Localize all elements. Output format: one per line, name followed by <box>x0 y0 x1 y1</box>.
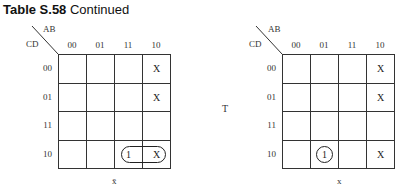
cell <box>59 140 87 169</box>
table-number: Table S.58 <box>3 2 66 17</box>
map-caption: x <box>337 176 342 186</box>
cell: X <box>143 83 171 112</box>
cell <box>87 83 115 112</box>
row-label: 10 <box>32 149 52 159</box>
cell <box>87 112 115 141</box>
cell <box>115 112 143 141</box>
col-label: 11 <box>114 40 142 50</box>
grouping-circle: 1 <box>316 146 333 163</box>
col-label: 01 <box>86 40 114 50</box>
cell <box>339 140 367 169</box>
col-var-label: AB <box>43 24 56 34</box>
row-label: 10 <box>256 149 276 159</box>
row-var-label: CD <box>26 39 39 49</box>
cell: X <box>143 55 171 84</box>
middle-label: T <box>222 103 228 114</box>
map-caption: x̄ <box>112 176 117 186</box>
row-label: 11 <box>256 120 276 130</box>
cell <box>59 112 87 141</box>
cell <box>87 55 115 84</box>
table-title: Table S.58 Continued <box>3 2 129 17</box>
row-label: 00 <box>32 63 52 73</box>
cell <box>59 83 87 112</box>
row-var-label: CD <box>249 39 262 49</box>
cell <box>115 83 143 112</box>
table-continued-label: Continued <box>70 2 129 17</box>
col-var-label: AB <box>268 24 281 34</box>
cell-circled: 1 <box>311 140 339 169</box>
cell <box>59 55 87 84</box>
col-label: 10 <box>366 40 394 50</box>
cell <box>87 140 115 169</box>
cell: X <box>367 83 395 112</box>
cell <box>339 83 367 112</box>
col-label: 10 <box>142 40 170 50</box>
cell <box>283 112 311 141</box>
cell <box>283 55 311 84</box>
cell: X <box>367 55 395 84</box>
cell <box>283 83 311 112</box>
col-label: 00 <box>58 40 86 50</box>
col-label: 11 <box>338 40 366 50</box>
cell <box>311 83 339 112</box>
cell: X <box>367 140 395 169</box>
col-label: 01 <box>310 40 338 50</box>
row-label: 01 <box>256 92 276 102</box>
cell <box>339 55 367 84</box>
row-label: 11 <box>32 120 52 130</box>
grouping-loop <box>121 146 166 163</box>
cell <box>311 112 339 141</box>
cell <box>311 55 339 84</box>
cell <box>143 112 171 141</box>
kmap-grid: X X 1 X <box>282 54 395 169</box>
row-label: 01 <box>32 92 52 102</box>
cell <box>115 55 143 84</box>
cell <box>283 140 311 169</box>
cell <box>367 112 395 141</box>
col-label: 00 <box>282 40 310 50</box>
row-label: 00 <box>256 63 276 73</box>
cell <box>339 112 367 141</box>
